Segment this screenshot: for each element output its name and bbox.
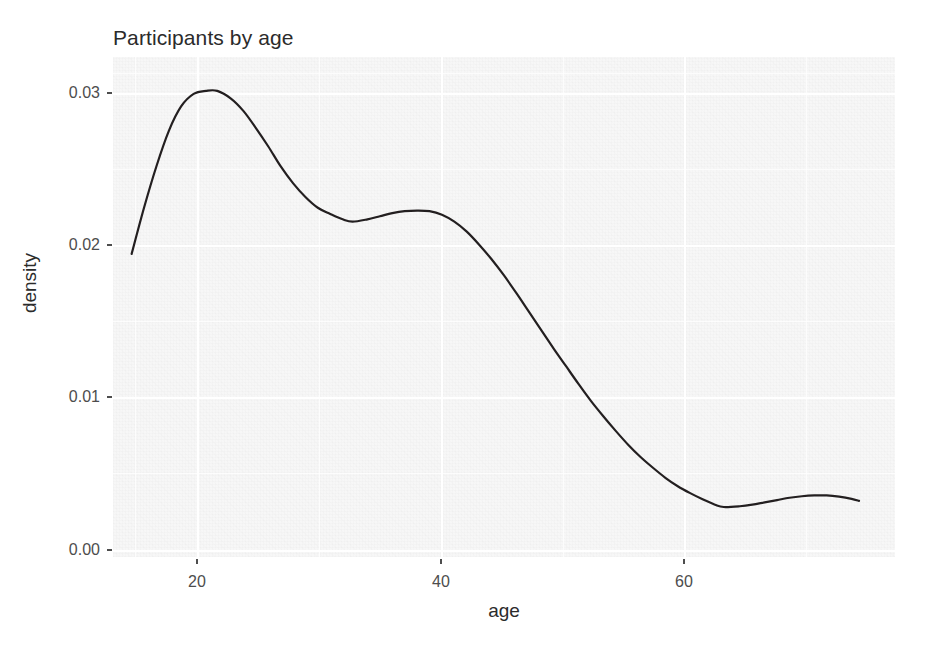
y-axis-title: density [19,193,41,373]
x-tick-label-60: 60 [675,573,693,591]
x-tick-label-40: 40 [432,573,450,591]
y-tick-mark [107,549,112,551]
y-axis-tick-labels: 0.03 0.02 0.01 0.00 [42,57,100,557]
y-tick-label-003: 0.03 [69,84,100,102]
y-tick-label-002: 0.02 [69,236,100,254]
chart-title: Participants by age [113,26,294,50]
y-tick-mark [107,396,112,398]
plot-panel [113,57,895,557]
x-axis-title: age [113,600,895,622]
density-curve-path [132,90,859,507]
y-tick-mark [107,92,112,94]
density-plot: Participants by age 0.03 0.02 0.01 0.00 … [0,0,943,659]
x-tick-mark [683,559,685,564]
x-tick-mark [196,559,198,564]
x-tick-label-20: 20 [188,573,206,591]
y-tick-mark [107,244,112,246]
y-tick-label-000: 0.00 [69,541,100,559]
x-axis-tick-labels: 20 40 60 [113,559,895,589]
x-tick-mark [440,559,442,564]
density-curve-svg [113,57,895,557]
y-tick-label-001: 0.01 [69,388,100,406]
